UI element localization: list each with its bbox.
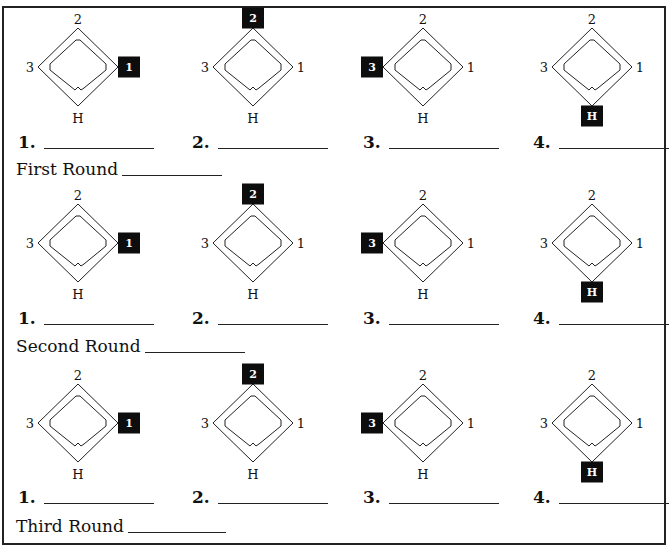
base-diagram: 123H bbox=[168, 358, 338, 488]
second-base-label: 2 bbox=[588, 189, 596, 202]
answer-blank[interactable]: 1. bbox=[18, 310, 154, 327]
home-plate-label: H bbox=[72, 288, 83, 301]
first-base-label: 1 bbox=[636, 417, 644, 430]
round-label: Third Round bbox=[16, 518, 124, 535]
base-diagram: 123H bbox=[338, 358, 508, 488]
first-base-highlight-box: 1 bbox=[118, 57, 140, 78]
base-diagram: 123H bbox=[168, 178, 338, 308]
answer-line[interactable] bbox=[218, 503, 328, 504]
second-base-label: 2 bbox=[588, 13, 596, 26]
home-plate-label: H bbox=[72, 468, 83, 481]
answer-number: 3. bbox=[363, 134, 381, 151]
second-base-label: 2 bbox=[419, 13, 427, 26]
home-plate-label: H bbox=[247, 468, 258, 481]
base-diagram: 123H bbox=[338, 178, 508, 308]
first-base-label: 1 bbox=[297, 417, 305, 430]
home-plate-label: H bbox=[247, 288, 258, 301]
answer-blank[interactable]: 4. bbox=[533, 489, 669, 506]
answer-number: 4. bbox=[533, 310, 551, 327]
first-base-label: 1 bbox=[636, 61, 644, 74]
third-base-label: 3 bbox=[540, 237, 548, 250]
answer-number: 1. bbox=[18, 489, 36, 506]
home-plate-label: H bbox=[417, 112, 428, 125]
second-base-highlight-box: 2 bbox=[242, 364, 264, 385]
answer-blank[interactable]: 3. bbox=[363, 310, 499, 327]
round-score-field[interactable]: Third Round bbox=[16, 518, 226, 535]
answer-blank[interactable]: 3. bbox=[363, 134, 499, 151]
third-base-highlight-box: 3 bbox=[361, 233, 383, 254]
round-label: Second Round bbox=[16, 338, 141, 355]
first-base-label: 1 bbox=[297, 61, 305, 74]
answer-number: 2. bbox=[192, 134, 210, 151]
round-score-field[interactable]: First Round bbox=[16, 161, 222, 178]
base-diagram: 123H bbox=[0, 178, 163, 308]
third-base-label: 3 bbox=[540, 61, 548, 74]
second-base-label: 2 bbox=[419, 189, 427, 202]
second-base-label: 2 bbox=[74, 369, 82, 382]
answer-blank[interactable]: 3. bbox=[363, 489, 499, 506]
third-base-highlight-box: 3 bbox=[361, 413, 383, 434]
home-plate-highlight-box: H bbox=[581, 282, 603, 303]
round-score-line[interactable] bbox=[128, 532, 226, 533]
answer-line[interactable] bbox=[389, 148, 499, 149]
answer-number: 3. bbox=[363, 310, 381, 327]
home-plate-label: H bbox=[72, 112, 83, 125]
answer-line[interactable] bbox=[559, 324, 669, 325]
answer-number: 1. bbox=[18, 310, 36, 327]
answer-line[interactable] bbox=[559, 148, 669, 149]
home-plate-label: H bbox=[247, 112, 258, 125]
base-diagram: 123H bbox=[0, 2, 163, 132]
answer-line[interactable] bbox=[389, 324, 499, 325]
answer-line[interactable] bbox=[44, 503, 154, 504]
third-base-label: 3 bbox=[201, 237, 209, 250]
first-base-label: 1 bbox=[467, 237, 475, 250]
home-plate-label: H bbox=[417, 468, 428, 481]
answer-blank[interactable]: 1. bbox=[18, 489, 154, 506]
first-base-highlight-box: 1 bbox=[118, 413, 140, 434]
first-base-label: 1 bbox=[636, 237, 644, 250]
answer-line[interactable] bbox=[44, 148, 154, 149]
second-base-highlight-box: 2 bbox=[242, 8, 264, 29]
answer-blank[interactable]: 2. bbox=[192, 310, 328, 327]
first-base-label: 1 bbox=[467, 417, 475, 430]
answer-number: 2. bbox=[192, 489, 210, 506]
second-base-highlight-box: 2 bbox=[242, 184, 264, 205]
home-plate-highlight-box: H bbox=[581, 106, 603, 127]
answer-number: 4. bbox=[533, 489, 551, 506]
first-base-highlight-box: 1 bbox=[118, 233, 140, 254]
second-base-label: 2 bbox=[74, 189, 82, 202]
round-score-field[interactable]: Second Round bbox=[16, 338, 245, 355]
answer-blank[interactable]: 2. bbox=[192, 489, 328, 506]
answer-line[interactable] bbox=[218, 324, 328, 325]
answer-line[interactable] bbox=[44, 324, 154, 325]
third-base-label: 3 bbox=[26, 237, 34, 250]
answer-line[interactable] bbox=[389, 503, 499, 504]
base-diagram: 123H bbox=[507, 2, 671, 132]
base-diagram: 123H bbox=[168, 2, 338, 132]
third-base-label: 3 bbox=[26, 417, 34, 430]
third-base-highlight-box: 3 bbox=[361, 57, 383, 78]
home-plate-highlight-box: H bbox=[581, 462, 603, 483]
round-score-line[interactable] bbox=[145, 352, 245, 353]
second-base-label: 2 bbox=[588, 369, 596, 382]
answer-blank[interactable]: 2. bbox=[192, 134, 328, 151]
answer-blank[interactable]: 1. bbox=[18, 134, 154, 151]
answer-number: 1. bbox=[18, 134, 36, 151]
answer-blank[interactable]: 4. bbox=[533, 134, 669, 151]
answer-number: 4. bbox=[533, 134, 551, 151]
first-base-label: 1 bbox=[467, 61, 475, 74]
third-base-label: 3 bbox=[540, 417, 548, 430]
answer-blank[interactable]: 4. bbox=[533, 310, 669, 327]
second-base-label: 2 bbox=[419, 369, 427, 382]
base-diagram: 123H bbox=[507, 358, 671, 488]
base-diagram: 123H bbox=[338, 2, 508, 132]
base-diagram: 123H bbox=[507, 178, 671, 308]
third-base-label: 3 bbox=[26, 61, 34, 74]
answer-line[interactable] bbox=[559, 503, 669, 504]
answer-number: 2. bbox=[192, 310, 210, 327]
round-score-line[interactable] bbox=[122, 175, 222, 176]
round-label: First Round bbox=[16, 161, 118, 178]
second-base-label: 2 bbox=[74, 13, 82, 26]
base-diagram: 123H bbox=[0, 358, 163, 488]
answer-line[interactable] bbox=[218, 148, 328, 149]
